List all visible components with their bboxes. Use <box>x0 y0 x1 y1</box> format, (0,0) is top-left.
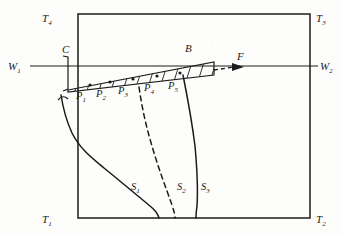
point-marker-p2 <box>108 80 111 83</box>
curve-label-s3: S3 <box>201 181 210 195</box>
point-label-p3: P3 <box>117 85 128 99</box>
water-label-right: W2 <box>320 60 333 75</box>
point-marker-p4 <box>155 74 158 77</box>
corner-label-bottom-right: T2 <box>316 213 326 228</box>
point-marker-p1 <box>88 83 91 86</box>
curve-s2 <box>139 87 175 218</box>
hatched-wedge <box>68 56 218 100</box>
figure-root: T4 T3 T1 T2 W1 W2 C B F P1 P2 P3 <box>0 0 342 236</box>
point-label-p4: P4 <box>143 82 154 96</box>
label-f: F <box>236 50 244 62</box>
f-arrow-head <box>232 63 244 71</box>
label-c: C <box>62 43 70 55</box>
c-bracket <box>63 56 68 91</box>
diagram-canvas: T4 T3 T1 T2 W1 W2 C B F P1 P2 P3 <box>0 0 342 236</box>
wedge-hatching <box>72 56 218 100</box>
label-b: B <box>185 42 192 54</box>
curve-s3 <box>183 75 197 218</box>
corner-label-top-left: T4 <box>42 12 52 27</box>
curve-label-s2: S2 <box>177 181 186 195</box>
apex-arc <box>58 97 68 100</box>
water-label-left: W1 <box>8 60 21 75</box>
curve-label-s1: S1 <box>131 181 140 195</box>
corner-label-top-right: T3 <box>316 12 326 27</box>
corner-label-bottom-left: T1 <box>42 213 52 228</box>
point-label-p5: P5 <box>167 80 178 94</box>
point-label-p2: P2 <box>95 88 106 102</box>
point-marker-p3 <box>131 77 134 80</box>
f-dashed-connector <box>214 67 234 70</box>
point-marker-p5 <box>178 71 181 74</box>
frame-rectangle <box>78 14 310 218</box>
point-label-p1: P1 <box>75 90 86 104</box>
